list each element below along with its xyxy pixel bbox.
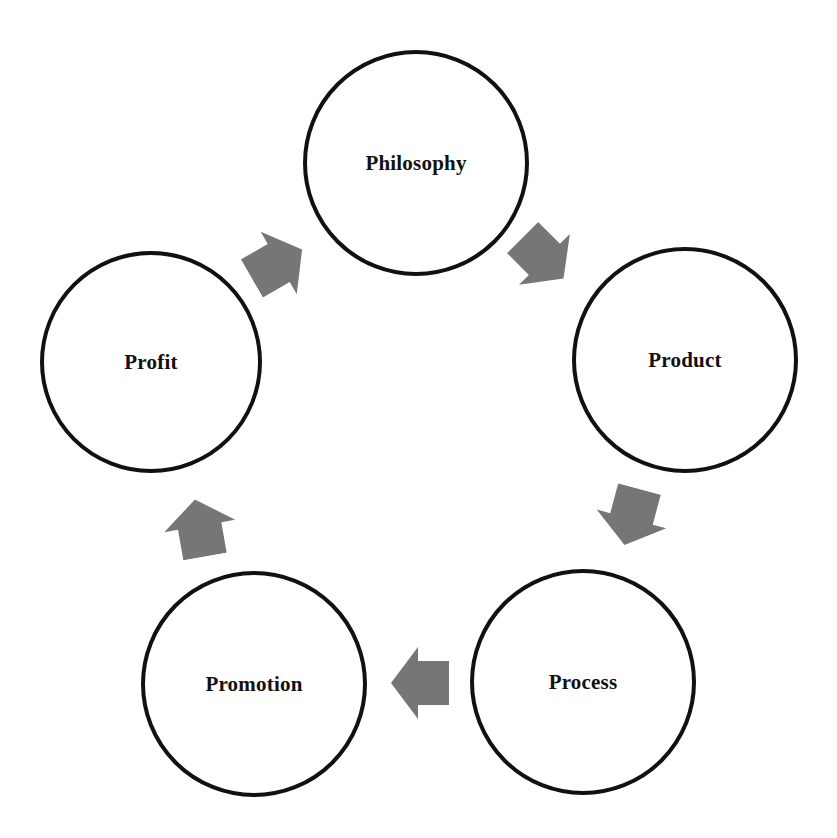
node-label-product: Product — [648, 348, 721, 373]
arrow-shape — [234, 218, 320, 309]
arrow-left-icon — [391, 647, 449, 719]
arrow-down-right-icon — [497, 212, 589, 304]
node-label-philosophy: Philosophy — [365, 151, 466, 176]
arrow-shape — [160, 493, 241, 563]
node-label-promotion: Promotion — [205, 672, 302, 697]
node-process: Process — [470, 569, 696, 795]
cycle-diagram: Philosophy Product Process Promotion Pro… — [0, 0, 837, 838]
node-label-profit: Profit — [124, 350, 177, 375]
arrow-shape — [590, 480, 675, 555]
arrow-shape — [391, 647, 449, 719]
arrow-up-right-icon — [234, 218, 320, 309]
node-product: Product — [572, 247, 798, 473]
node-promotion: Promotion — [141, 571, 367, 797]
node-profit: Profit — [40, 251, 262, 473]
arrow-down-icon — [590, 480, 675, 555]
arrow-shape — [497, 212, 589, 304]
node-philosophy: Philosophy — [303, 50, 529, 276]
arrow-up-icon — [160, 493, 241, 563]
node-label-process: Process — [549, 670, 618, 695]
